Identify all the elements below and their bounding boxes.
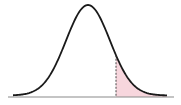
normal-distribution-diagram [0, 0, 181, 105]
bell-curve [13, 5, 167, 95]
